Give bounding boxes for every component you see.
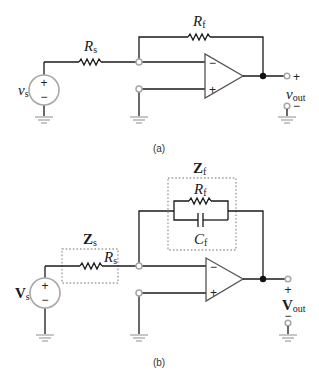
zs-label: Zs [83,231,97,248]
plus-sign: + [40,76,47,90]
plus-sign: + [41,279,48,293]
rf-label-a: Rf [192,13,206,30]
capacitor-cf [198,213,203,227]
noninv-input-sign: + [209,83,216,97]
ground-icon [36,335,54,341]
output-ref-terminal-b [285,320,291,326]
node-noninv-a [136,86,142,92]
out-plus-sign: + [293,70,300,84]
ground-icon [130,117,148,123]
out-plus-sign: + [284,283,291,297]
cf-label: Cf [194,231,208,248]
noninv-input-sign: + [210,286,217,300]
ground-icon [279,335,297,341]
source-label-b: Vs [15,285,30,302]
voltage-source-b: + − Vs [15,266,60,334]
ground-icon [130,335,148,341]
minus-sign: − [40,90,47,104]
zf-label: Zf [193,160,207,177]
caption-a: (a) [153,143,165,154]
resistor-rf-a [188,34,210,40]
output-ref-terminal-a [284,103,290,109]
opamp-a: − + [205,54,243,98]
opamp-circuit-diagram: + − vs Rs Rf [0,0,319,376]
minus-sign: − [41,293,48,307]
source-label-a: vs [18,82,29,99]
inv-input-sign: − [209,56,216,70]
inv-input-sign: − [210,260,217,274]
node-inv-a [136,59,142,65]
output-terminal-b [285,276,291,282]
resistor-rs-a [79,59,101,65]
rf-label-b: Rf [193,181,207,198]
voltage-source-a: + − vs [18,62,59,116]
out-minus-sign: − [293,99,300,113]
caption-b: (b) [153,357,165,368]
rs-label-a: Rs [83,38,97,55]
output-junction-dot [260,276,266,282]
circuit-a: + − vs Rs Rf [18,13,306,154]
node-inv-b [136,263,142,269]
opamp-b: − + [206,258,243,301]
node-noninv-b [136,290,142,296]
circuit-b: + − Vs Zs Rs Zf Rf Cf [15,160,306,368]
output-terminal-a [284,73,290,79]
resistor-rs-b [80,263,102,269]
ground-icon [278,117,296,123]
resistor-rf-b [189,198,211,204]
output-junction-dot [260,73,266,79]
ground-icon [35,117,53,123]
rs-label-b: Rs [103,249,117,266]
